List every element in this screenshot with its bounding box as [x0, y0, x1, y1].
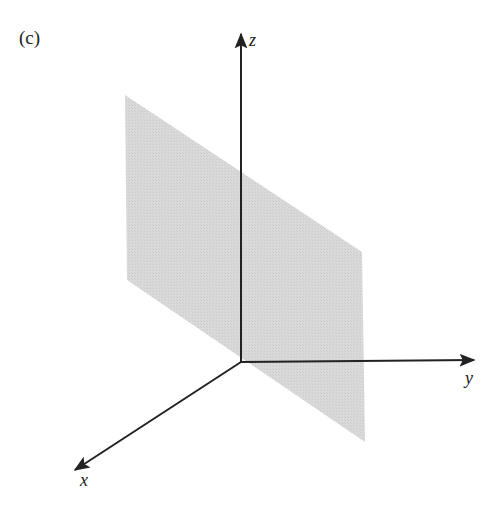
axes-diagram: z y x — [0, 0, 501, 509]
x-axis — [75, 362, 241, 470]
shaded-plane — [125, 95, 365, 442]
x-axis-label: x — [79, 470, 88, 490]
y-axis-label: y — [463, 368, 473, 388]
z-axis-label: z — [248, 30, 256, 50]
panel-label: (c) — [19, 28, 40, 47]
3d-axes-figure: (c) z y x — [0, 0, 501, 509]
